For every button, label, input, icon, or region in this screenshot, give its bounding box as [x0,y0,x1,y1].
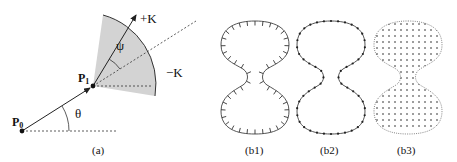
psi-label: ψ [116,38,124,53]
figure: P0 P1 θ ψ +K −K (a) (b1) (b2) (b3) [0,0,457,162]
panel-b3 [374,21,442,134]
b3-interior-grid [376,23,438,127]
caption-b3: (b3) [397,144,416,157]
caption-b2: (b2) [320,144,339,157]
p0-label: P0 [12,115,23,130]
b2-contour [297,21,365,134]
b1-contour [221,21,289,134]
minus-k-label: −K [166,65,183,80]
panel-b2 [296,20,366,135]
b3-contour [374,21,442,134]
panel-b1 [221,21,289,134]
b2-contour-dots [296,20,366,135]
theta-label: θ [75,106,81,121]
panel-a: P0 P1 θ ψ +K −K (a) [12,11,196,157]
caption-b1: (b1) [245,144,264,157]
curvature-sector [93,15,156,96]
caption-a: (a) [92,144,105,157]
p1-label: P1 [78,71,89,86]
theta-arc [62,106,69,131]
point-p1 [91,84,96,89]
plus-k-label: +K [140,11,157,26]
b1-inward-ticks [221,21,289,134]
